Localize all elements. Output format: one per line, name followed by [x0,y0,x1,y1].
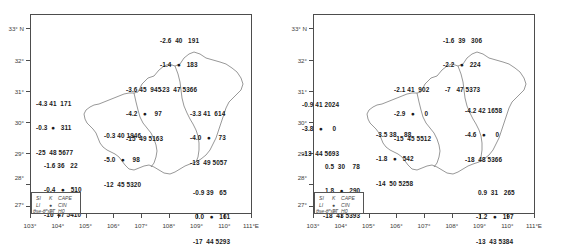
xtick-label: 108° [445,222,458,229]
legend-k: K [49,195,52,201]
station-line-si-k-cape: -1.6 36 22 [44,162,82,170]
station-line-si-k-cape: -3.6 45 945 [126,86,163,94]
station-line-li-dot-cin: -1.4 ● 183 [160,61,199,69]
ytick [309,206,313,207]
station-line-theta-tt-h0: -14 50 5258 [376,180,414,188]
ytick [309,60,313,61]
ytick [26,122,30,123]
station-line-li-dot-cin: -1.8 ● 542 [376,155,414,163]
ytick [26,28,30,29]
station-annotation: 0.9 31 265 -1.2 ● 197 -13 43 5384 [476,172,515,249]
xtick [369,214,370,218]
xtick [313,214,314,218]
station-line-si-k-cape: 0.5 30 78 [323,163,360,171]
xtick-label: 111°E [243,222,259,229]
legend-h0: H0 [58,208,65,214]
ytick-label: 33° N [0,25,24,32]
xtick [169,214,170,218]
station-annotation: -0.3 40 1946 -5.0 ● 98 -12 45 5320 [104,115,141,206]
xtick [452,214,453,218]
ytick-label: 27° [0,201,24,208]
station-line-theta-tt-h0: -13 43 5384 [476,238,515,246]
station-line-theta-tt-h0: -13 49 5057 [190,159,227,167]
station-line-si-k-cape: -0.3 40 1946 [104,132,141,140]
ytick [309,184,313,185]
legend-cape: CAPE [341,195,355,201]
legend-h0: H0 [341,208,348,214]
ytick-label: 30° [0,118,24,125]
station-line-si-k-cape: -1.6 39 306 [443,37,482,45]
station-line-si-k-cape: -4.3 41 171 [36,100,73,108]
xtick [251,214,252,218]
figure-canvas: 103° 104° 105° 106° 107° 108° 109° 110° … [0,0,566,249]
xtick [534,214,535,218]
station-line-theta-tt-h0: -18 48 5366 [465,156,502,164]
ytick-label: 29° [0,150,24,157]
ytick-label: 31° [0,87,24,94]
station-line-li-dot-cin: -3.8 ● 0 [302,125,339,133]
station-line-si-k-cape: -4.2 42 1658 [465,107,502,115]
station-line-li-dot-cin: -0.3 ● 311 [36,124,73,132]
map-panel-left: 103° 104° 105° 106° 107° 108° 109° 110° … [0,0,283,249]
station-line-si-k-cape: -0.9 41 2024 [302,101,339,109]
legend-si: SI [319,195,324,201]
ytick [26,60,30,61]
station-line-li-dot-cin: -5.0 ● 98 [104,156,141,164]
ytick-label: 28° [0,174,24,181]
legend-si: SI [36,195,41,201]
xtick [113,214,114,218]
ytick [26,184,30,185]
xtick [86,214,87,218]
ytick-label: 32° [283,56,307,63]
station-annotation: -0.9 39 65 0.0 ● 161 -17 44 5293 [193,172,230,249]
xtick-label: 106° [107,222,120,229]
xtick-label: 105° [362,222,375,229]
ytick-label: 33° N [283,25,307,32]
xtick-label: 106° [390,222,403,229]
station-line-si-k-cape: -2.1 41 902 [394,86,431,94]
station-line-li-dot-cin: -2.2 ● 224 [443,61,482,69]
station-line-si-k-cape: -0.9 39 65 [193,189,230,197]
xtick-label: 103° [307,222,320,229]
station-line-si-k-cape: -3.5 38 88 [376,131,414,139]
station-line-si-k-cape: 0.9 31 265 [476,189,515,197]
station-line-li-dot-cin: -1.2 ● 197 [476,213,515,221]
station-annotation: -4.2 42 1658 -4.6 ● 0 -18 48 5366 [465,90,502,181]
xtick-label: 111°E [526,222,542,229]
ytick-label: 27° [283,201,307,208]
station-line-theta-tt-h0: -17 44 5293 [193,238,230,246]
station-line-li-dot-cin: -4.0 ● 73 [190,134,227,142]
legend-box: SI K CAPE LI ● CIN θse-θ*se TT H0 [31,192,81,214]
map-panel-right: 103° 104° 105° 106° 107° 108° 109° 110° … [283,0,566,249]
xtick-label: 108° [162,222,175,229]
xtick-label: 107° [418,222,431,229]
station-annotation: -1.6 36 22 -0.4 ● 510 -16 47 5410 [44,145,82,236]
ytick [309,28,313,29]
station-line-li-dot-cin: -4.6 ● 0 [465,131,502,139]
legend-box: SI K CAPE LI ● CIN θse-θ*se TT H0 [314,192,364,214]
station-line-si-k-cape: -2.6 40 191 [160,37,199,45]
station-line-theta-tt-h0: -12 45 5320 [104,181,141,189]
xtick [141,214,142,218]
legend-tt: TT [332,208,338,214]
xtick [424,214,425,218]
legend-tt: TT [49,208,55,214]
xtick [30,214,31,218]
ytick [26,206,30,207]
station-annotation: -3.5 38 88 -1.8 ● 542 -14 50 5258 [376,114,414,205]
xtick [396,214,397,218]
ytick [26,153,30,154]
station-annotation: -3.3 41 614 -4.0 ● 73 -13 49 5057 [190,93,227,184]
xtick-label: 103° [24,222,37,229]
legend-k: K [332,195,335,201]
ytick [26,91,30,92]
station-line-si-k-cape: -3.3 41 614 [190,110,227,118]
xtick-label: 107° [135,222,148,229]
ytick-label: 32° [0,56,24,63]
legend-cape: CAPE [58,195,72,201]
station-line-li-dot-cin: 0.0 ● 161 [193,213,230,221]
